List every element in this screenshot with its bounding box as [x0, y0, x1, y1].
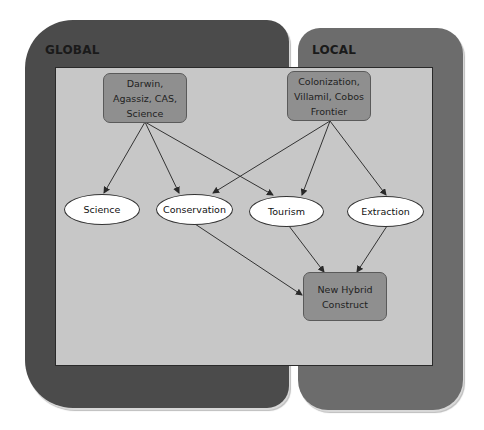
- node-tourism: Tourism: [249, 196, 324, 227]
- node-conservation: Conservation: [156, 194, 233, 225]
- global-region-title: GLOBAL: [45, 43, 100, 57]
- node-science: Science: [64, 194, 140, 225]
- node-colonization-villamil-cobos-frontier: Colonization, Villamil, Cobos Frontier: [287, 71, 371, 121]
- node-extraction: Extraction: [347, 196, 424, 227]
- node-new-hybrid-construct: New Hybrid Construct: [303, 272, 387, 321]
- local-region-title: LOCAL: [312, 43, 356, 57]
- node-darwin-agassiz-cas-science: Darwin, Agassiz, CAS, Science: [103, 73, 187, 123]
